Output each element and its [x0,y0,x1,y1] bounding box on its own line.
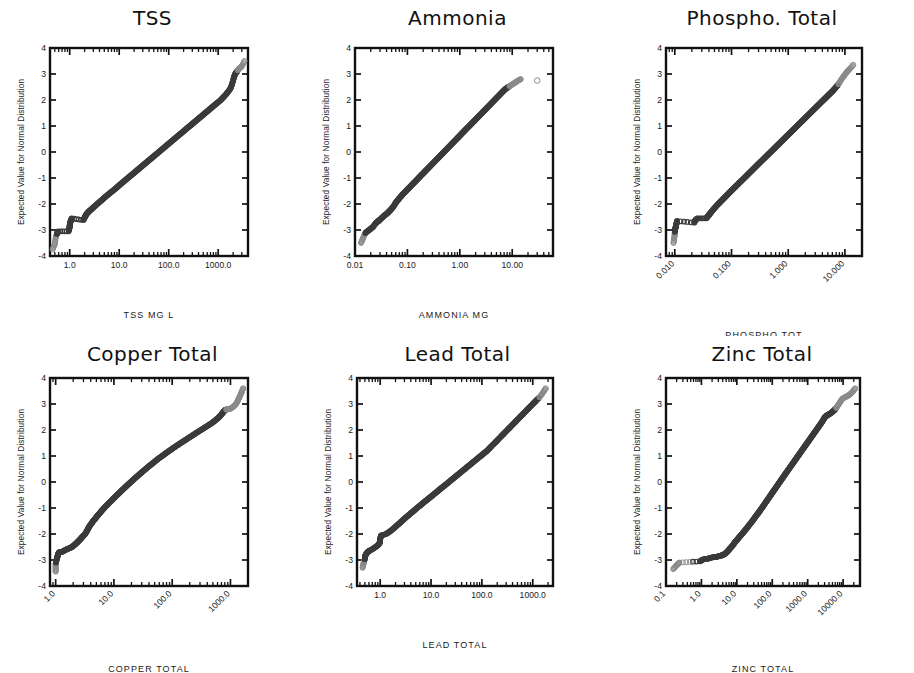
y-tick-label: 2 [657,425,662,435]
y-axis-label: Expected Value for Normal Distribution [322,79,331,225]
qq-plot-canvas: Expected Value for Normal Distribution-4… [610,336,914,673]
y-tick-label: -2 [345,529,353,539]
x-tick-label: 1.0 [687,588,703,604]
x-axis-label: TSS MG L [124,310,175,320]
y-tick-label: 4 [41,373,46,383]
y-tick-label: 0 [657,147,662,157]
x-tick-label: 1000.0 [205,260,232,270]
x-tick-label: 100.0 [158,260,180,270]
scatter-points [671,386,858,572]
y-tick-label: -1 [38,503,46,513]
qq-plot-canvas: Expected Value for Normal Distribution-4… [305,336,610,673]
x-tick-label: 10.0 [96,588,115,607]
plot-frame [666,378,860,586]
x-tick-label: 1000.0 [783,588,809,614]
x-tick-label: 0.100 [711,258,733,280]
x-axis-label: AMMONIA MG [419,310,490,320]
qq-plot-canvas: Expected Value for Normal Distribution-4… [0,0,305,336]
x-tick-label: 0.10 [399,260,416,270]
scatter-points [50,58,247,252]
x-axis-label: LEAD TOTAL [422,640,487,650]
x-tick-label: 1000.0 [206,588,232,614]
y-tick-label: 3 [348,399,353,409]
x-tick-label: 10.0 [111,260,128,270]
qq-plot-canvas: Expected Value for Normal Distribution-4… [0,336,305,673]
scatter-points [358,77,523,246]
y-tick-label: 0 [657,477,662,487]
y-tick-label: 0 [348,477,353,487]
y-tick-label: -3 [654,555,662,565]
x-tick-label: 10.0 [719,588,738,607]
x-tick-label: 10000.0 [815,588,844,617]
x-tick-label: 1.0 [374,590,386,600]
qq-panel-3: Phospho. TotalExpected Value for Normal … [610,0,914,336]
x-tick-label: 10.0 [423,590,440,600]
y-tick-label: 4 [348,373,353,383]
y-tick-label: 0 [41,147,46,157]
y-tick-label: -1 [654,503,662,513]
y-tick-label: 1 [657,451,662,461]
x-axis-label: COPPER TOTAL [108,664,190,673]
y-tick-label: 2 [346,95,351,105]
scatter-points [671,62,856,245]
y-tick-label: -1 [654,173,662,183]
y-tick-label: -2 [654,199,662,209]
x-tick-label: 100.0 [751,588,773,610]
y-tick-label: 0 [346,147,351,157]
x-axis-label: ZINC TOTAL [732,664,795,673]
y-axis-label: Expected Value for Normal Distribution [17,409,26,555]
y-tick-label: -2 [38,529,46,539]
qq-panel-6: Zinc TotalExpected Value for Normal Dist… [610,336,914,673]
y-tick-label: 2 [41,425,46,435]
y-tick-label: -3 [38,555,46,565]
y-tick-label: -3 [654,225,662,235]
y-tick-label: 3 [657,399,662,409]
plot-frame [357,378,553,586]
y-tick-label: 1 [348,451,353,461]
y-tick-label: 2 [657,95,662,105]
x-tick-label: 1.0 [64,260,76,270]
y-axis-label: Expected Value for Normal Distribution [633,79,642,225]
x-tick-label: 1.000 [767,258,789,280]
qq-plot-canvas: Expected Value for Normal Distribution-4… [305,0,610,336]
x-tick-label: 1000.0 [520,590,547,600]
qq-panel-4: Copper TotalExpected Value for Normal Di… [0,336,305,673]
y-axis-label: Expected Value for Normal Distribution [17,79,26,225]
y-tick-label: -4 [345,581,353,591]
y-tick-label: 3 [41,399,46,409]
y-tick-label: 3 [346,69,351,79]
qq-plot-grid: TSSExpected Value for Normal Distributio… [0,0,914,673]
scatter-points [53,386,246,574]
y-tick-label: 4 [657,43,662,53]
x-tick-label: 10.00 [501,260,523,270]
y-axis-label: Expected Value for Normal Distribution [324,409,333,555]
y-axis-label: Expected Value for Normal Distribution [633,409,642,555]
y-tick-label: -3 [345,555,353,565]
y-tick-label: 1 [41,451,46,461]
y-tick-label: 4 [657,373,662,383]
y-tick-label: -1 [345,503,353,513]
y-tick-label: -2 [654,529,662,539]
y-tick-label: 0 [41,477,46,487]
outlier-point [534,78,540,84]
y-tick-label: 3 [41,69,46,79]
x-tick-label: 0.01 [347,260,364,270]
y-tick-label: -2 [38,199,46,209]
y-tick-label: -1 [38,173,46,183]
y-tick-label: 1 [41,121,46,131]
y-tick-label: -4 [38,251,46,261]
y-tick-label: -3 [343,225,351,235]
x-tick-label: 10.000 [821,258,847,284]
y-tick-label: -1 [343,173,351,183]
plot-frame [50,378,248,586]
y-tick-label: 4 [346,43,351,53]
y-tick-label: -4 [654,251,662,261]
qq-plot-canvas: Expected Value for Normal Distribution-4… [610,0,914,336]
x-tick-label: 100.0 [471,590,493,600]
x-tick-label: 1.00 [451,260,468,270]
x-tick-label: 0.010 [654,258,676,280]
scatter-points [360,386,548,571]
qq-panel-2: AmmoniaExpected Value for Normal Distrib… [305,0,610,336]
y-tick-label: -2 [343,199,351,209]
y-tick-label: 1 [657,121,662,131]
